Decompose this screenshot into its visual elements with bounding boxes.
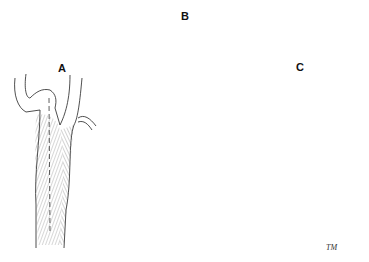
panel-label-c: C xyxy=(296,61,304,73)
panel-a-drawing xyxy=(15,74,96,248)
illustration-canvas xyxy=(0,0,369,262)
panel-label-b: B xyxy=(181,10,189,22)
panel-label-a: A xyxy=(58,62,66,74)
artist-signature: TM xyxy=(326,243,337,252)
